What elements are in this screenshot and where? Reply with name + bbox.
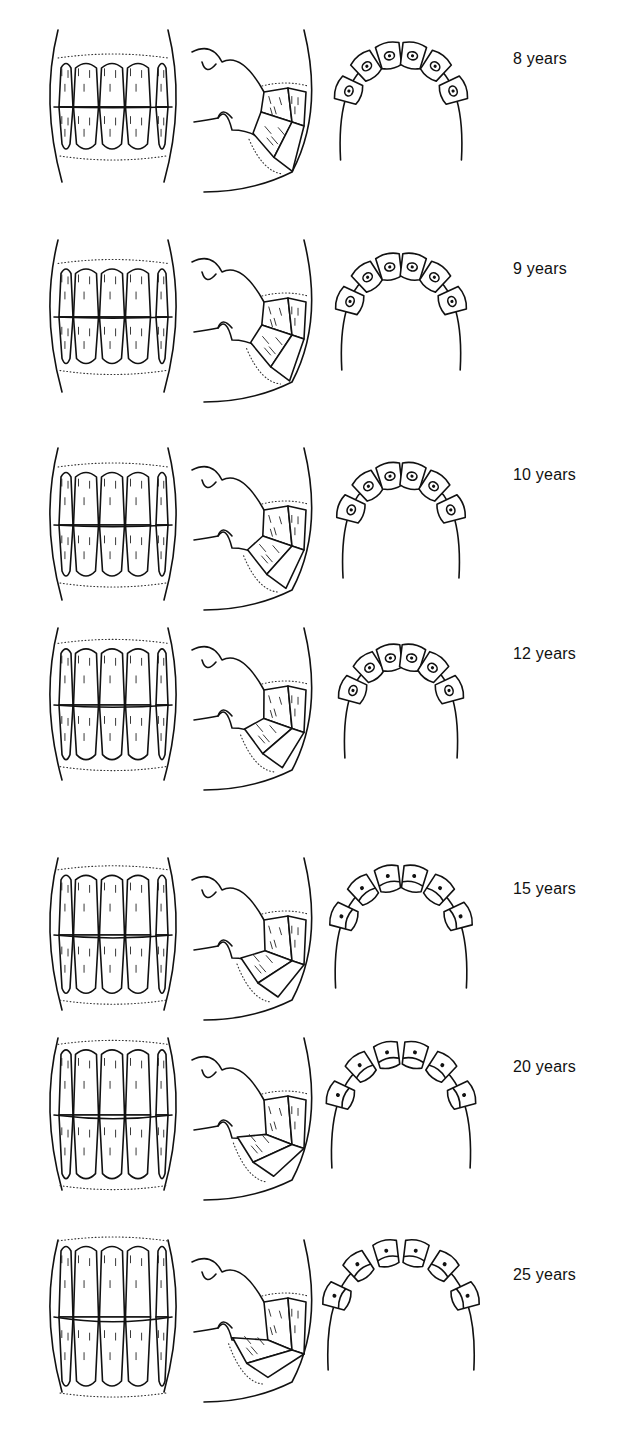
age-label: 10 years [513,466,576,484]
age-label: 8 years [513,50,567,68]
occlusal-view-illustration [326,232,476,382]
side-view-illustration [192,232,322,402]
side-view-illustration [192,1232,322,1402]
front-view-illustration [38,232,188,402]
side-view-illustration [192,1030,322,1200]
front-view-illustration [38,440,188,610]
front-view-illustration [38,1232,188,1402]
occlusal-view-illustration [326,850,476,1000]
front-view-illustration [38,620,188,790]
occlusal-view-illustration [326,22,476,172]
occlusal-view-illustration [326,1232,476,1382]
occlusal-view-illustration [326,440,476,590]
age-label: 9 years [513,260,567,278]
side-view-illustration [192,620,322,790]
age-label: 20 years [513,1058,576,1076]
age-label: 25 years [513,1266,576,1284]
side-view-illustration [192,22,322,192]
occlusal-view-illustration [326,1030,476,1180]
front-view-illustration [38,850,188,1020]
side-view-illustration [192,850,322,1020]
side-view-illustration [192,440,322,610]
age-label: 15 years [513,880,576,898]
age-label: 12 years [513,645,576,663]
front-view-illustration [38,1030,188,1200]
front-view-illustration [38,22,188,192]
occlusal-view-illustration [326,620,476,770]
